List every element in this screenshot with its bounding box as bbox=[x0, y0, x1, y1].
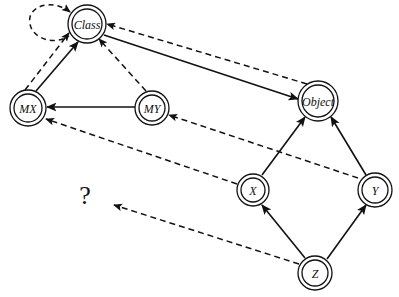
diagram-canvas: Class MX MY Object X bbox=[0, 0, 399, 297]
node-y[interactable]: Y bbox=[358, 173, 392, 207]
edge-z-to-unknown-dashed bbox=[114, 205, 299, 264]
graph-svg: Class MX MY Object X bbox=[0, 0, 399, 297]
edge-x-to-object-solid bbox=[262, 117, 305, 175]
edge-x-to-mx-dashed bbox=[46, 119, 237, 184]
node-object-label: Object bbox=[302, 95, 335, 109]
unknown-question-mark: ? bbox=[79, 181, 91, 210]
edge-class-to-object-solid bbox=[104, 35, 298, 99]
edge-y-to-my-dashed bbox=[169, 115, 358, 178]
node-mx[interactable]: MX bbox=[10, 90, 46, 126]
node-x[interactable]: X bbox=[237, 174, 269, 206]
node-z-label: Z bbox=[312, 267, 319, 281]
node-x-label: X bbox=[248, 184, 257, 198]
edge-z-to-x-solid bbox=[262, 205, 305, 258]
edge-object-to-class-dashed bbox=[107, 24, 307, 84]
edge-z-to-y-solid bbox=[327, 205, 366, 259]
edge-y-to-object-solid bbox=[331, 117, 366, 175]
node-class[interactable]: Class bbox=[68, 5, 106, 43]
node-my-label: MY bbox=[143, 102, 162, 116]
node-mx-label: MX bbox=[18, 102, 37, 116]
node-my[interactable]: MY bbox=[135, 91, 169, 125]
edge-class-self-loop bbox=[30, 5, 70, 41]
edge-mx-to-class-dashed bbox=[25, 33, 69, 90]
node-object[interactable]: Object bbox=[298, 81, 338, 121]
node-z[interactable]: Z bbox=[298, 256, 332, 290]
node-class-label: Class bbox=[74, 18, 101, 32]
